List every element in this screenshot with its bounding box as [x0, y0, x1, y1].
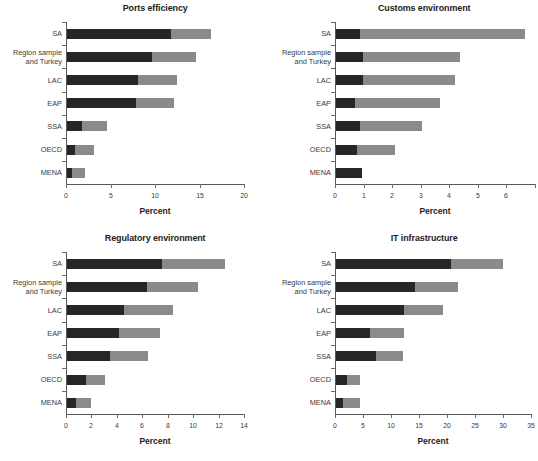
bar-segment: [357, 145, 395, 155]
category-label-lac: LAC: [5, 306, 62, 315]
y-axis-tick: [62, 138, 66, 139]
x-axis-tick: [66, 414, 67, 418]
bar-segment: [336, 282, 415, 292]
x-axis-tick: [219, 414, 220, 418]
x-axis-tick-label: 25: [464, 421, 486, 430]
bar-segment: [82, 121, 107, 131]
x-axis-tick: [503, 414, 504, 418]
y-axis-tick: [331, 161, 335, 162]
x-axis-tick-label: 10: [144, 191, 166, 200]
x-axis-title: Percent: [71, 436, 238, 446]
x-axis-tick: [142, 414, 143, 418]
x-axis-tick: [363, 414, 364, 418]
bar-segment: [67, 259, 162, 269]
y-axis-tick: [331, 368, 335, 369]
panel-ports-efficiency: Ports efficiencySARegion sample and Turk…: [0, 0, 269, 230]
bar-segment: [363, 75, 454, 85]
x-axis-tick: [244, 184, 245, 188]
x-axis-tick-label: 1: [353, 191, 375, 200]
category-label-mena: MENA: [5, 398, 62, 407]
bar-segment: [336, 121, 360, 131]
x-axis-tick-label: 30: [492, 421, 514, 430]
bar-segment: [336, 98, 355, 108]
category-label-sa: SA: [5, 259, 62, 268]
panel-customs-environment: Customs environmentSARegion sample and T…: [269, 0, 538, 230]
x-axis-tick-label: 20: [436, 421, 458, 430]
y-axis-tick: [331, 345, 335, 346]
bar-segment: [336, 168, 362, 178]
x-axis-tick: [168, 414, 169, 418]
x-axis-line: [335, 184, 535, 185]
y-axis-tick: [331, 391, 335, 392]
y-axis-tick: [62, 161, 66, 162]
x-axis-tick: [447, 414, 448, 418]
bar-segment: [162, 259, 224, 269]
x-axis-tick-label: 2: [381, 191, 403, 200]
y-axis-tick: [331, 275, 335, 276]
x-axis-tick: [66, 184, 67, 188]
x-axis-tick-label: 15: [188, 191, 210, 200]
bar-segment: [124, 305, 173, 315]
chart-grid: Ports efficiencySARegion sample and Turk…: [0, 0, 538, 461]
bar-segment: [343, 398, 359, 408]
bar-segment: [336, 328, 370, 338]
bar-segment: [336, 29, 360, 39]
y-axis-tick: [331, 68, 335, 69]
category-label-lac: LAC: [274, 76, 331, 85]
category-label-sa: SA: [274, 29, 331, 38]
y-axis-tick: [62, 345, 66, 346]
x-axis-tick: [364, 184, 365, 188]
bar-segment: [67, 145, 75, 155]
y-axis-tick: [62, 68, 66, 69]
bar-segment: [67, 121, 82, 131]
x-axis-tick-label: 8: [157, 421, 179, 430]
y-axis-tick: [62, 92, 66, 93]
bar-segment: [72, 168, 84, 178]
category-label-ssa: SSA: [274, 122, 331, 131]
x-axis-title: Percent: [71, 206, 238, 216]
category-label-sa: SA: [274, 259, 331, 268]
bar-segment: [370, 328, 405, 338]
x-axis-tick-label: 0: [55, 421, 77, 430]
y-axis-tick: [331, 298, 335, 299]
x-axis-tick: [475, 414, 476, 418]
bar-segment: [336, 305, 404, 315]
y-axis-tick: [62, 298, 66, 299]
category-label-oecd: OECD: [274, 145, 331, 154]
y-axis-tick: [331, 322, 335, 323]
bar-segment: [152, 52, 196, 62]
bar-segment: [363, 52, 460, 62]
panel-it-infrastructure: IT infrastructureSARegion sample and Tur…: [269, 230, 538, 461]
chart-title: IT infrastructure: [277, 232, 530, 243]
bar-segment: [67, 375, 86, 385]
bar-segment: [67, 282, 147, 292]
y-axis-tick: [62, 22, 66, 23]
bar-segment: [86, 375, 105, 385]
x-axis-tick-label: 3: [410, 191, 432, 200]
x-axis-tick-label: 4: [438, 191, 460, 200]
category-label-mena: MENA: [274, 398, 331, 407]
category-label-eap: EAP: [274, 99, 331, 108]
y-axis-tick: [62, 275, 66, 276]
bar-segment: [376, 351, 403, 361]
category-label-ssa: SSA: [5, 352, 62, 361]
y-axis-tick: [62, 322, 66, 323]
chart-title: Ports efficiency: [8, 2, 261, 13]
category-label-ssa: SSA: [5, 122, 62, 131]
y-axis-tick: [62, 115, 66, 116]
x-axis-line: [66, 414, 244, 415]
x-axis-tick-label: 15: [408, 421, 430, 430]
x-axis-tick: [111, 184, 112, 188]
x-axis-tick-label: 5: [352, 421, 374, 430]
x-axis-tick-label: 5: [467, 191, 489, 200]
category-label-eap: EAP: [5, 329, 62, 338]
x-axis-tick: [449, 184, 450, 188]
bar-segment: [147, 282, 198, 292]
x-axis-tick: [155, 184, 156, 188]
x-axis-tick-label: 10: [182, 421, 204, 430]
bar-segment: [360, 29, 524, 39]
category-label-oecd: OECD: [274, 375, 331, 384]
x-axis-tick: [506, 184, 507, 188]
category-label-sa: SA: [5, 29, 62, 38]
x-axis-tick: [244, 414, 245, 418]
